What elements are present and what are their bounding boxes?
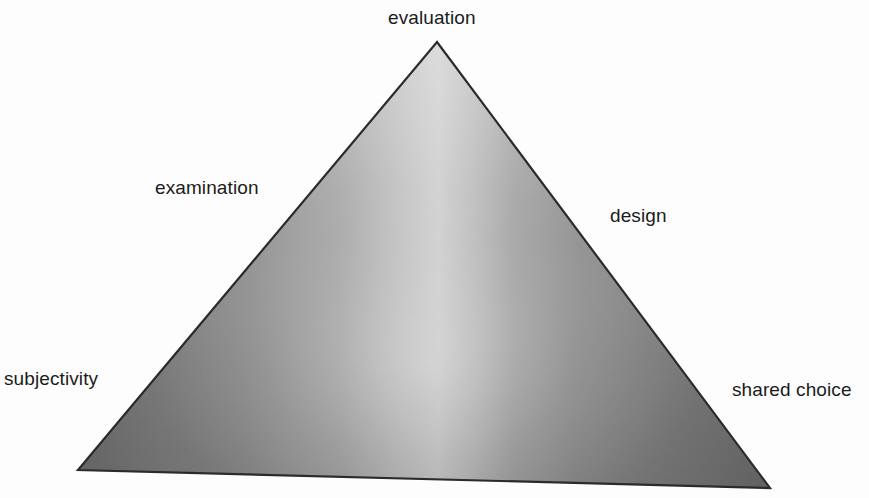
label-examination: examination <box>155 177 259 199</box>
label-shared-choice: shared choice <box>732 379 852 401</box>
triangle-shape <box>0 0 869 498</box>
label-subjectivity: subjectivity <box>4 368 98 390</box>
label-evaluation: evaluation <box>388 7 476 29</box>
label-design: design <box>610 205 667 227</box>
triangle-grain <box>0 0 869 498</box>
diagram-canvas: evaluation examination design subjectivi… <box>0 0 869 498</box>
